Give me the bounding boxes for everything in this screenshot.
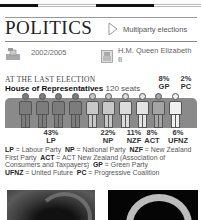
political-system-label: Multiparty elections: [123, 25, 187, 34]
house-seats: 120 seats: [106, 84, 141, 93]
seat-figure-np: [86, 93, 98, 129]
seat-figure-nzf: [119, 93, 131, 129]
party-label-ufnz: 6%UFNZ: [165, 129, 191, 145]
head-of-state-item: H.M. Queen Elizabeth II: [101, 46, 197, 64]
party-label-lp: 43%LP: [41, 129, 61, 145]
header-divider-bottom: [5, 41, 197, 42]
election-years: 2002/2005: [31, 48, 66, 57]
portrait-photo-right: [108, 190, 198, 220]
ballot-box-icon: [5, 46, 21, 58]
seat-figure-np: [102, 93, 114, 129]
election-years-item: 2002/2005: [5, 46, 66, 58]
info-row: 2002/2005 H.M. Queen Elizabeth II: [5, 46, 197, 60]
seat-figure-act: [136, 93, 148, 129]
seat-figure-lp: [52, 93, 64, 129]
triangle-outline-icon: [108, 22, 118, 36]
political-system: Multiparty elections: [108, 22, 187, 36]
top-decorative-bar: [0, 4, 201, 8]
house-title: House of Representatives 120 seats: [5, 84, 140, 93]
party-label-pc: 2% PC: [178, 75, 194, 91]
party-label-gp: 8% GP: [156, 75, 172, 91]
party-label-nzf: 11%NZF: [125, 129, 143, 145]
section-title: POLITICS: [5, 17, 92, 39]
party-label-np: 22%NP: [98, 129, 118, 145]
portrait-photo-left: [7, 190, 95, 220]
seat-figure-gp: [152, 93, 164, 129]
seat-figure-lp: [69, 93, 81, 129]
seat-figure-pc: [169, 93, 181, 129]
crown-throne-icon: [101, 49, 113, 61]
seat-figure-lp: [19, 93, 31, 129]
house-name: House of Representatives: [5, 84, 103, 93]
party-label-act: 8%ACT: [143, 129, 161, 145]
seat-figure-lp: [36, 93, 48, 129]
head-of-state: H.M. Queen Elizabeth II: [118, 46, 197, 64]
party-legend: LP = Labour Party NP = National Party NZ…: [5, 146, 199, 176]
election-section-title: AT THE LAST ELECTION: [5, 75, 95, 84]
